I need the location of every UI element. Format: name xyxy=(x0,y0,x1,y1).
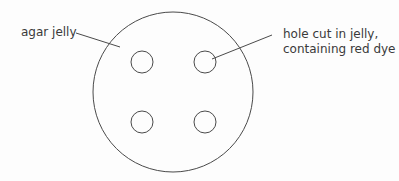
hole-leader-line xyxy=(212,35,272,59)
agar-plate xyxy=(93,12,253,172)
agar-jelly-label: agar jelly xyxy=(21,25,77,40)
hole-label-line2: containing red dye xyxy=(283,42,396,57)
hole-top-left xyxy=(131,51,153,73)
hole-bottom-right xyxy=(194,111,216,133)
diagram-canvas: agar jelly hole cut in jelly, containing… xyxy=(0,0,399,181)
agar-leader-line xyxy=(76,33,120,47)
hole-label-line1: hole cut in jelly, xyxy=(283,27,396,42)
hole-top-right xyxy=(194,51,216,73)
hole-label: hole cut in jelly, containing red dye xyxy=(283,27,396,57)
hole-bottom-left xyxy=(131,111,153,133)
